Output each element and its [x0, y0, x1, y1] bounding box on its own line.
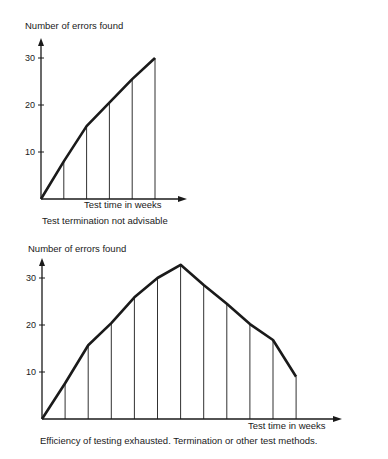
y-tick-label: 10	[25, 147, 35, 157]
y-axis-arrow-icon	[38, 38, 44, 46]
y-tick-label: 20	[26, 320, 36, 330]
errors-line	[41, 58, 155, 199]
y-axis-label: Number of errors found	[28, 243, 126, 254]
x-axis-arrow-icon	[333, 416, 342, 422]
y-tick-label: 30	[25, 53, 35, 63]
chart-testing-exhausted: 102030Number of errors foundTest time in…	[26, 243, 342, 446]
y-axis-arrow-icon	[39, 258, 45, 266]
charts-figure: 102030Number of errors foundTest time in…	[0, 0, 388, 459]
y-tick-label: 20	[25, 100, 35, 110]
chart-termination-not-advisable: 102030Number of errors foundTest time in…	[25, 20, 187, 226]
x-axis-label: Test time in weeks	[84, 199, 162, 210]
y-tick-label: 30	[26, 273, 36, 283]
chart-caption: Efficiency of testing exhausted. Termina…	[40, 435, 317, 446]
y-tick-label: 10	[26, 367, 36, 377]
x-axis-arrow-icon	[178, 196, 187, 202]
y-axis-label: Number of errors found	[25, 20, 123, 31]
errors-line	[42, 265, 296, 419]
x-axis-label: Test time in weeks	[248, 420, 326, 431]
chart-caption: Test termination not advisable	[42, 215, 168, 226]
